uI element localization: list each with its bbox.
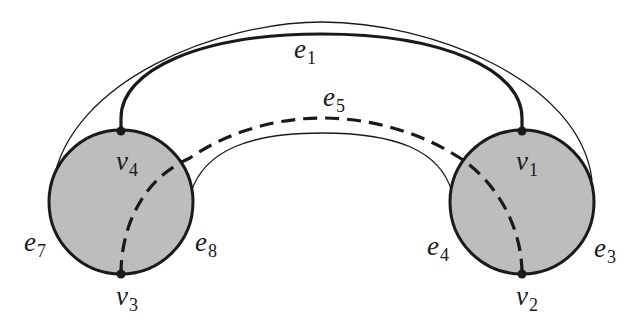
label-e5: e5 [323, 84, 345, 115]
label-e4-sub: 4 [440, 245, 449, 265]
label-v4-base: v [116, 146, 128, 176]
label-e3-sub: 3 [607, 247, 616, 267]
label-v2-sub: 2 [529, 295, 538, 315]
label-e8-sub: 8 [208, 241, 217, 261]
label-v4: v4 [116, 148, 138, 179]
label-e5-sub: 5 [336, 96, 345, 116]
diagram-drawing [0, 0, 641, 325]
label-v3-sub: 3 [129, 295, 138, 315]
vertex-v1-dot [518, 127, 527, 136]
label-e5-base: e [323, 82, 335, 112]
label-v3: v3 [116, 283, 138, 314]
label-e4: e4 [427, 233, 449, 264]
label-v4-sub: 4 [129, 160, 138, 180]
label-e8-base: e [195, 227, 207, 257]
edge-e1 [121, 34, 522, 130]
label-v1: v1 [516, 148, 538, 179]
label-e7-sub: 7 [37, 241, 46, 261]
vertex-v4-dot [117, 127, 126, 136]
label-e7: e7 [24, 229, 46, 260]
vertex-v3-dot [117, 270, 126, 279]
label-v2-base: v [516, 281, 528, 311]
label-v1-base: v [516, 146, 528, 176]
label-e3-base: e [594, 233, 606, 263]
band-inner-boundary [191, 133, 452, 192]
label-e1-sub: 1 [307, 48, 316, 68]
label-e8: e8 [195, 229, 217, 260]
label-v3-base: v [116, 281, 128, 311]
vertex-v2-dot [518, 270, 527, 279]
label-v1-sub: 1 [529, 160, 538, 180]
label-e1: e1 [294, 36, 316, 67]
label-v2: v2 [516, 283, 538, 314]
label-e7-base: e [24, 227, 36, 257]
label-e1-base: e [294, 34, 306, 64]
handle-graph-diagram: e1 e5 e7 e8 e4 e3 v1 v2 v3 v4 [0, 0, 641, 325]
label-e3: e3 [594, 235, 616, 266]
label-e4-base: e [427, 231, 439, 261]
